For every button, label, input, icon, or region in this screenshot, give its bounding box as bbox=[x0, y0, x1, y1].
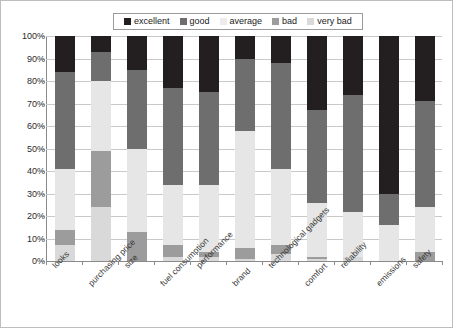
y-axis-tick-label: 80% bbox=[5, 76, 45, 86]
bar-segment-excellent bbox=[235, 36, 255, 59]
stacked-bar bbox=[91, 36, 111, 261]
legend-item-good: good bbox=[180, 17, 210, 26]
bar-segment-average bbox=[163, 185, 183, 246]
bar-segment-excellent bbox=[127, 36, 147, 70]
y-axis-tick-label: 90% bbox=[5, 54, 45, 64]
y-axis-tick-mark bbox=[41, 81, 45, 82]
y-axis-tick-mark bbox=[41, 149, 45, 150]
bar-segment-good bbox=[235, 59, 255, 131]
bar-segment-average bbox=[55, 169, 75, 230]
y-axis-tick-label: 40% bbox=[5, 166, 45, 176]
stacked-bar bbox=[271, 36, 291, 261]
legend-item-very-bad: very bad bbox=[307, 17, 352, 26]
bar-segment-average bbox=[91, 81, 111, 151]
bar-segment-very-bad bbox=[91, 207, 111, 261]
stacked-bar bbox=[199, 36, 219, 261]
bar-column bbox=[55, 36, 75, 261]
y-axis-tick-label: 50% bbox=[5, 144, 45, 154]
bar-segment-excellent bbox=[163, 36, 183, 88]
legend-swatch-bad bbox=[272, 18, 279, 25]
stacked-bar bbox=[415, 36, 435, 261]
x-axis-labels: lookspurchasing pricesizefuel consumptio… bbox=[1, 259, 453, 328]
bar-column bbox=[235, 36, 255, 261]
y-axis-tick-mark bbox=[41, 104, 45, 105]
chart-legend: excellent good average bad very bad bbox=[113, 13, 363, 30]
y-axis-tick-mark bbox=[41, 216, 45, 217]
bar-column bbox=[199, 36, 219, 261]
x-axis-tick-label: brand bbox=[230, 266, 252, 288]
bar-segment-excellent bbox=[343, 36, 363, 95]
bar-column bbox=[91, 36, 111, 261]
bar-segment-bad bbox=[91, 151, 111, 207]
bar-segment-good bbox=[343, 95, 363, 212]
y-axis-tick-mark bbox=[41, 194, 45, 195]
y-axis-tick-label: 10% bbox=[5, 234, 45, 244]
stacked-bar bbox=[379, 36, 399, 261]
y-axis-tick-label: 60% bbox=[5, 121, 45, 131]
bar-segment-good bbox=[163, 88, 183, 185]
bar-segment-bad bbox=[163, 245, 183, 256]
legend-swatch-average bbox=[220, 18, 227, 25]
x-axis-tick-label: comfort bbox=[302, 261, 329, 288]
legend-label-average: average bbox=[230, 17, 263, 26]
legend-label-good: good bbox=[190, 17, 210, 26]
bar-segment-good bbox=[91, 52, 111, 81]
bar-segment-excellent bbox=[415, 36, 435, 101]
legend-label-excellent: excellent bbox=[134, 17, 170, 26]
bar-segment-excellent bbox=[307, 36, 327, 110]
plot-area bbox=[46, 36, 442, 261]
bar-segment-excellent bbox=[55, 36, 75, 72]
bar-column bbox=[343, 36, 363, 261]
bar-segment-good bbox=[127, 70, 147, 149]
legend-swatch-very-bad bbox=[307, 18, 314, 25]
legend-item-average: average bbox=[220, 17, 263, 26]
legend-item-bad: bad bbox=[272, 17, 297, 26]
stacked-bar bbox=[343, 36, 363, 261]
bar-column bbox=[127, 36, 147, 261]
bar-column bbox=[271, 36, 291, 261]
y-axis-tick-label: 70% bbox=[5, 99, 45, 109]
stacked-bar bbox=[235, 36, 255, 261]
y-axis-tick-mark bbox=[41, 126, 45, 127]
y-axis-tick-mark bbox=[41, 171, 45, 172]
bar-segment-excellent bbox=[91, 36, 111, 52]
bar-segment-average bbox=[271, 169, 291, 246]
legend-swatch-good bbox=[180, 18, 187, 25]
legend-item-excellent: excellent bbox=[124, 17, 170, 26]
y-axis-tick-label: 20% bbox=[5, 211, 45, 221]
bar-segment-average bbox=[235, 131, 255, 248]
bar-segment-good bbox=[271, 63, 291, 169]
bar-segment-average bbox=[379, 225, 399, 261]
bar-segment-excellent bbox=[199, 36, 219, 92]
bar-column bbox=[163, 36, 183, 261]
bar-segment-average bbox=[127, 149, 147, 232]
y-axis-tick-label: 100% bbox=[5, 31, 45, 41]
legend-swatch-excellent bbox=[124, 18, 131, 25]
bar-segment-excellent bbox=[271, 36, 291, 63]
bar-column bbox=[379, 36, 399, 261]
bar-segment-excellent bbox=[379, 36, 399, 194]
bar-segment-good bbox=[55, 72, 75, 169]
x-axis-tick-label: emissions bbox=[374, 254, 408, 288]
bar-segment-bad bbox=[55, 230, 75, 246]
y-axis-tick-mark bbox=[41, 36, 45, 37]
bar-segment-good bbox=[199, 92, 219, 184]
stacked-bar bbox=[127, 36, 147, 261]
bar-segment-good bbox=[379, 194, 399, 226]
bar-series-group bbox=[47, 36, 442, 261]
stacked-bar-chart: excellent good average bad very bad 0%10… bbox=[0, 0, 453, 328]
y-axis-tick-label: 30% bbox=[5, 189, 45, 199]
bar-segment-good bbox=[415, 101, 435, 207]
bar-segment-good bbox=[307, 110, 327, 202]
y-axis: 0%10%20%30%40%50%60%70%80%90%100% bbox=[1, 36, 45, 261]
bar-segment-bad bbox=[235, 248, 255, 259]
stacked-bar bbox=[163, 36, 183, 261]
legend-label-bad: bad bbox=[282, 17, 297, 26]
stacked-bar bbox=[55, 36, 75, 261]
bar-segment-average bbox=[415, 207, 435, 252]
y-axis-tick-mark bbox=[41, 59, 45, 60]
bar-column bbox=[415, 36, 435, 261]
y-axis-tick-mark bbox=[41, 239, 45, 240]
legend-label-very-bad: very bad bbox=[317, 17, 352, 26]
